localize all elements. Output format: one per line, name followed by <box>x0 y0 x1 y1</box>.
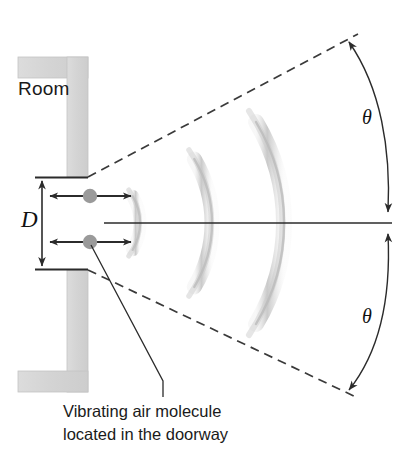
diffraction-figure: Room D θ θ Vibrating air molecule locate… <box>0 0 408 465</box>
molecule-lower <box>50 235 131 249</box>
figure-caption: Vibrating air molecule located in the do… <box>63 400 228 446</box>
wall-bottom-arm <box>18 371 88 392</box>
angle-label-bottom: θ <box>362 305 372 328</box>
molecule-upper <box>50 189 131 203</box>
figure-canvas <box>0 0 408 465</box>
doorway-edges <box>35 178 88 270</box>
molecule-upper-dot <box>83 189 97 203</box>
upper-dashed-boundary <box>88 34 358 177</box>
lower-dashed-boundary <box>88 270 358 398</box>
spread-boundaries <box>88 34 358 398</box>
molecule-group <box>50 189 131 249</box>
caption-line-2: located in the doorway <box>63 423 228 446</box>
room-label: Room <box>18 78 69 100</box>
caption-leader-line <box>91 245 163 397</box>
aperture-width-label: D <box>21 207 38 233</box>
angle-arcs <box>349 42 389 390</box>
molecule-lower-dot <box>83 235 97 249</box>
caption-line-1: Vibrating air molecule <box>63 400 228 423</box>
wall-upper-jamb <box>67 57 88 177</box>
angle-label-top: θ <box>362 106 372 129</box>
